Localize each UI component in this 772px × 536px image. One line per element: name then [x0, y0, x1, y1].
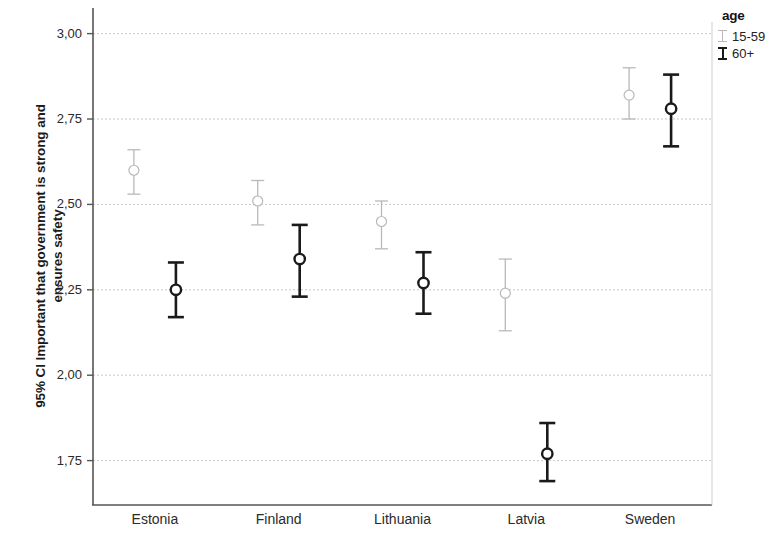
legend-entry-15-59: 15-59 — [716, 28, 772, 44]
error-bar-latvia-60+ — [539, 423, 555, 481]
legend-title: age — [716, 8, 772, 23]
error-bar-estonia-15-59 — [127, 150, 140, 194]
legend: age 15-5960+ — [716, 8, 772, 62]
gridlines — [93, 34, 712, 461]
x-tick-label-estonia: Estonia — [132, 511, 179, 527]
x-tick-label-latvia: Latvia — [508, 511, 545, 527]
error-bar-estonia-60+ — [168, 262, 184, 317]
legend-entry-label: 15-59 — [732, 29, 765, 44]
error-bar-chart: 95% CI Important that government is stro… — [0, 0, 772, 536]
error-bar-sweden-15-59 — [623, 68, 636, 119]
error-bar-lithuania-60+ — [416, 252, 432, 313]
data-markers — [127, 68, 679, 481]
error-bar-sweden-60+ — [663, 75, 679, 147]
legend-entries: 15-5960+ — [716, 28, 772, 61]
error-bar-finland-15-59 — [251, 180, 264, 224]
x-tick-label-finland: Finland — [256, 511, 302, 527]
plot-frame — [92, 8, 712, 505]
legend-entry-60+: 60+ — [716, 45, 772, 61]
y-axis-ticks — [87, 34, 93, 461]
error-bar-lithuania-15-59 — [375, 201, 388, 249]
legend-error-bar-icon — [716, 29, 729, 43]
x-tick-label-lithuania: Lithuania — [374, 511, 431, 527]
legend-entry-label: 60+ — [732, 46, 754, 61]
error-bar-latvia-15-59 — [499, 259, 512, 331]
error-bar-finland-60+ — [292, 225, 308, 297]
legend-error-bar-icon — [716, 46, 729, 60]
plot-area — [0, 0, 772, 536]
x-tick-label-sweden: Sweden — [625, 511, 676, 527]
